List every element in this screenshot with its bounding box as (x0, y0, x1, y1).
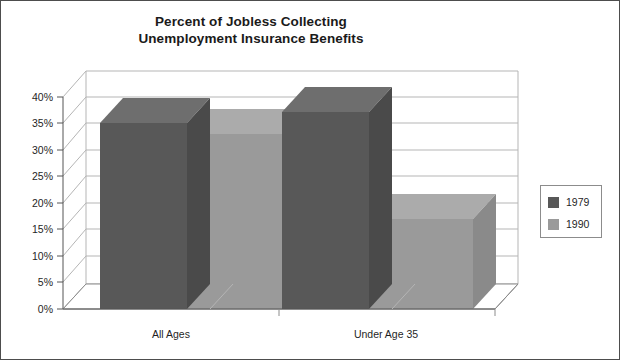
y-axis-depth-lines (63, 71, 86, 309)
legend-item-1990[interactable]: 1990 (548, 213, 601, 235)
y-tick-label: 5% (38, 276, 53, 288)
x-axis-labels: All Ages Under Age 35 (152, 309, 495, 340)
bar-all-ages-1979[interactable] (100, 98, 210, 309)
y-tick-label: 0% (38, 303, 53, 315)
bar-under-35-1979[interactable] (282, 87, 392, 309)
legend-swatch-1990 (548, 219, 559, 230)
x-category-label: All Ages (152, 328, 190, 340)
y-tick-label: 30% (32, 144, 53, 156)
x-category-label: Under Age 35 (354, 328, 418, 340)
chart-legend: 1979 1990 (540, 185, 602, 238)
legend-label-1979: 1979 (566, 197, 589, 208)
y-tick-label: 15% (32, 223, 53, 235)
y-tick-label: 10% (32, 250, 53, 262)
y-tick-label: 40% (32, 91, 53, 103)
y-tick-label: 20% (32, 197, 53, 209)
y-axis-line (57, 97, 63, 309)
bar-chart-plot: 40% 35% 30% 25% 20% 15% 10% 5% 0% (1, 1, 620, 360)
legend-label-1990: 1990 (566, 219, 589, 230)
y-tick-label: 25% (32, 170, 53, 182)
legend-swatch-1979 (548, 197, 559, 208)
y-tick-label: 35% (32, 117, 53, 129)
chart-frame: Percent of Jobless Collecting Unemployme… (0, 0, 620, 360)
y-axis-tick-labels: 40% 35% 30% 25% 20% 15% 10% 5% 0% (32, 91, 53, 315)
legend-item-1979[interactable]: 1979 (548, 191, 601, 213)
